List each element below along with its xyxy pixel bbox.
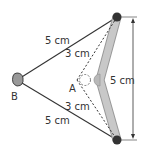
label-bottom-left-side: 5 cm <box>45 115 70 126</box>
bend-knob-dashed <box>80 75 91 86</box>
arrow-up-icon <box>131 18 135 23</box>
top-pin <box>113 13 122 22</box>
bottom-pin <box>113 136 122 145</box>
arrow-down-icon <box>131 134 135 139</box>
bend-knob <box>94 74 100 86</box>
label-bottom-inner: 3 cm <box>65 101 90 112</box>
label-top-left-side: 5 cm <box>45 35 70 46</box>
label-point-b: B <box>11 91 18 102</box>
label-point-a: A <box>69 83 76 94</box>
geometry-diagram: 5 cm 5 cm 3 cm 3 cm 5 cm A B <box>0 0 142 155</box>
label-vertical: 5 cm <box>110 75 135 86</box>
pivot-b <box>13 73 24 86</box>
label-top-inner: 3 cm <box>65 48 90 59</box>
